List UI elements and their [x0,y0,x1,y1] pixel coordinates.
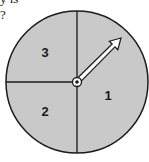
section-label-2: 2 [41,104,48,119]
spinner-hub-dot [75,80,79,84]
spinner-diagram: 3 2 1 [0,0,149,162]
section-label-1: 1 [104,88,111,103]
section-label-3: 3 [41,45,48,60]
